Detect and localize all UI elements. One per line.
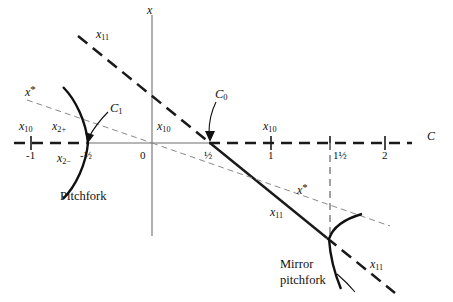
x11-mirror-subscript: 11 [375, 263, 383, 272]
x10-center-subscript: 10 [162, 125, 170, 134]
x11-upper-label: x11 [96, 28, 109, 42]
c0-subscript: 0 [223, 92, 227, 102]
x10-right-label: x10 [263, 120, 276, 134]
tick-label-minus-half: -½ [80, 150, 92, 161]
x11-upper-subscript: 11 [101, 33, 109, 42]
x11-mirror-label: x11 [370, 258, 383, 272]
x10-center-label: x10 [157, 120, 170, 134]
x11-lower-label: x11 [270, 206, 283, 220]
vertical-axis-label: x [147, 4, 152, 16]
c0-annotation-arrowhead [205, 131, 215, 142]
tick-label-zero: 0 [140, 150, 146, 161]
x2-minus-subscript: 2− [62, 157, 71, 166]
x11-lower-subscript: 11 [275, 211, 283, 220]
mirror-pitchfork-caption-line2: pitchfork [280, 274, 326, 287]
bifurcation-diagram-figure: x C x11 x* x10 x2+ x2− C1 C0 x10 x10 -1 … [0, 0, 453, 302]
x2-minus-label: x2− [57, 152, 71, 166]
pitchfork-caption: Pitchfork [60, 190, 107, 203]
x10-right-subscript: 10 [268, 125, 276, 134]
x10-left-label: x10 [19, 120, 32, 134]
x11-upper-dashed-branch [78, 36, 210, 143]
mirror-pitchfork-caption-line1: Mirror [280, 258, 313, 271]
c0-annotation-leader [209, 102, 216, 133]
c1-label: C1 [110, 102, 123, 116]
tick-label-1: 1 [268, 150, 274, 161]
x11-mirror-dashed-branch [327, 238, 395, 293]
x-star-upper-superscript: * [30, 83, 35, 95]
tick-label-2: 2 [382, 150, 388, 161]
x2-plus-label: x2+ [52, 120, 66, 134]
x-star-lower-label: x* [297, 182, 308, 196]
tick-label-minus-1: -1 [26, 150, 35, 161]
horizontal-axis-label: C [427, 130, 435, 142]
c0-label: C0 [215, 88, 228, 102]
x-star-upper-label: x* [25, 84, 36, 98]
tick-label-1-and-half: 1½ [333, 150, 347, 161]
x-star-lower-superscript: * [302, 181, 307, 193]
c1-subscript: 1 [118, 106, 122, 116]
x10-left-subscript: 10 [24, 125, 32, 134]
x2-plus-subscript: 2+ [57, 125, 66, 134]
tick-label-half: ½ [204, 150, 212, 161]
